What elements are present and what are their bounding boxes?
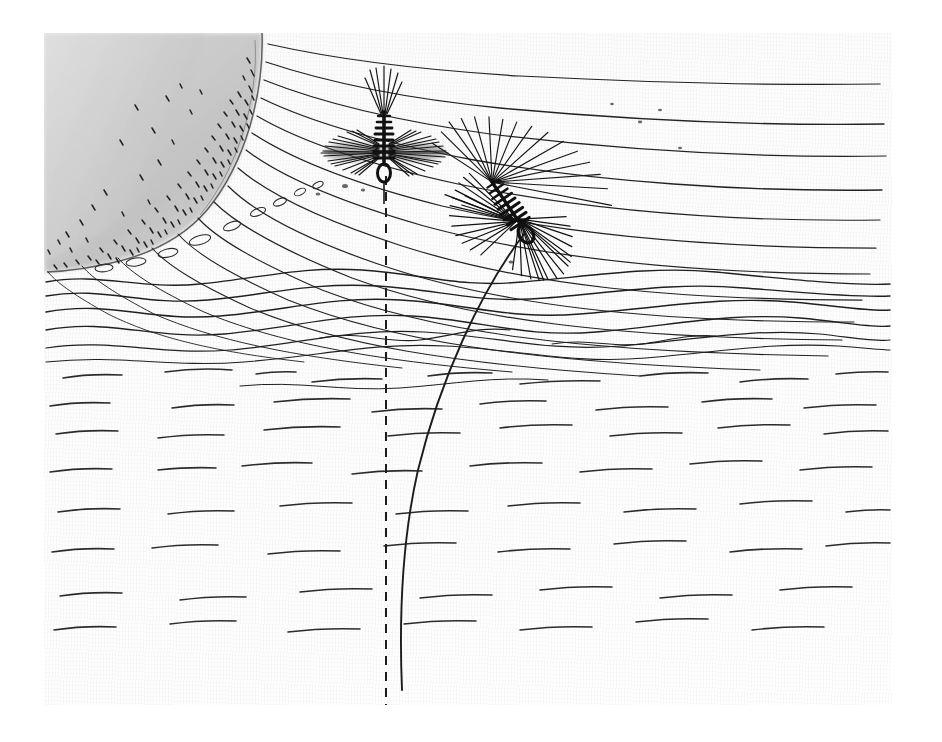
ripple-dashes — [50, 369, 890, 632]
dragging-fly — [401, 68, 635, 312]
illustration-stage: Two artificial dry flies floating on a s… — [0, 0, 942, 742]
fly-1-tail — [365, 66, 402, 114]
fly-1-hook-eye — [378, 164, 391, 182]
fly-drag-illustration — [0, 0, 942, 742]
dead-drifting-fly — [321, 66, 448, 204]
